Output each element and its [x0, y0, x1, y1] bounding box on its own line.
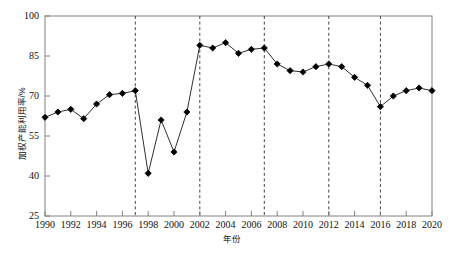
data-point-1996: [119, 90, 125, 96]
figure-caption-strip: [0, 254, 464, 263]
x-tick-label-2014: 2014: [345, 219, 365, 230]
data-point-1992: [68, 106, 74, 112]
x-tick-label-2008: 2008: [267, 219, 287, 230]
data-point-2020: [429, 88, 435, 94]
data-point-2019: [416, 85, 422, 91]
x-axis-title: 年份: [0, 232, 464, 244]
data-point-2015: [364, 82, 370, 88]
plot-frame: [45, 16, 432, 216]
data-point-2012: [326, 61, 332, 67]
chart-plot-area: 2540557085100 19901992199419961998200020…: [0, 0, 464, 263]
data-series-line: [45, 43, 432, 174]
data-point-1995: [106, 92, 112, 98]
data-point-1997: [132, 88, 138, 94]
x-tick-label-1994: 1994: [87, 219, 107, 230]
x-tick-label-2006: 2006: [241, 219, 261, 230]
axes-group: [45, 16, 432, 216]
data-point-2000: [171, 149, 177, 155]
capacity-utilization-chart: 2540557085100 19901992199419961998200020…: [0, 0, 464, 263]
x-tick-labels-group: 1990199219941996199820002002200420062008…: [35, 219, 442, 230]
data-point-2003: [210, 45, 216, 51]
y-tick-label-55: 55: [29, 130, 39, 141]
data-point-1998: [145, 170, 151, 176]
tick-marks-group: [45, 16, 432, 216]
data-point-1999: [158, 117, 164, 123]
data-line-group: [45, 43, 432, 174]
data-point-2010: [300, 69, 306, 75]
data-point-2018: [403, 88, 409, 94]
x-tick-label-2012: 2012: [319, 219, 339, 230]
x-tick-label-1990: 1990: [35, 219, 55, 230]
x-tick-label-2010: 2010: [293, 219, 313, 230]
x-tick-label-2004: 2004: [216, 219, 236, 230]
data-point-2002: [197, 42, 203, 48]
x-tick-label-1998: 1998: [138, 219, 158, 230]
y-tick-label-100: 100: [24, 10, 39, 21]
data-point-2009: [287, 68, 293, 74]
x-tick-label-2020: 2020: [422, 219, 442, 230]
y-tick-label-40: 40: [29, 170, 39, 181]
data-point-1990: [42, 114, 48, 120]
x-tick-label-2016: 2016: [370, 219, 390, 230]
data-point-1991: [55, 109, 61, 115]
y-axis-title: 加权产能利用率/%: [15, 69, 27, 179]
data-point-2001: [184, 109, 190, 115]
y-tick-label-70: 70: [29, 90, 39, 101]
data-point-2011: [313, 64, 319, 70]
data-point-2006: [248, 46, 254, 52]
reference-lines-group: [135, 16, 380, 216]
x-tick-label-2000: 2000: [164, 219, 184, 230]
x-tick-label-2018: 2018: [396, 219, 416, 230]
x-tick-label-1992: 1992: [61, 219, 81, 230]
y-tick-label-85: 85: [29, 50, 39, 61]
data-markers-group: [42, 40, 435, 177]
x-tick-label-2002: 2002: [190, 219, 210, 230]
x-tick-label-1996: 1996: [112, 219, 132, 230]
